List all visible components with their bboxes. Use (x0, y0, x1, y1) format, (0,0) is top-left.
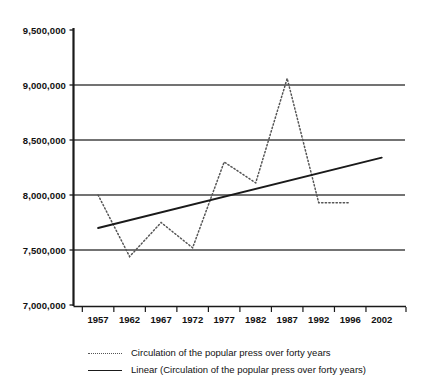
dotted-line-swatch-icon (88, 348, 122, 358)
x-axis-tick-label: 1967 (151, 314, 172, 325)
legend-entry-circulation: Circulation of the popular press over fo… (88, 347, 331, 358)
x-axis-tick-label: 2002 (371, 314, 392, 325)
x-axis-tick-label: 1987 (277, 314, 298, 325)
legend-entry-linear-trend: Linear (Circulation of the popular press… (88, 364, 366, 375)
x-axis-tick-label: 1977 (214, 314, 235, 325)
gridlines (74, 85, 406, 250)
y-axis-tick-label: 9,500,000 (0, 25, 66, 36)
y-axis-tick-label: 7,500,000 (0, 245, 66, 256)
solid-line-swatch-icon (88, 365, 122, 375)
chart-container: 7,000,0007,500,0008,000,0008,500,0009,00… (0, 0, 430, 389)
y-axis-tick-label: 9,000,000 (0, 80, 66, 91)
series-line-linear-trend (98, 158, 382, 228)
x-axis-tick-label: 1957 (88, 314, 109, 325)
series-line-circulation (98, 78, 350, 256)
x-axis-tick-label: 1982 (245, 314, 266, 325)
x-axis-tick-label: 1962 (119, 314, 140, 325)
x-axis-tick-label: 1992 (308, 314, 329, 325)
y-axis-tick-label: 8,500,000 (0, 135, 66, 146)
legend-label-circulation: Circulation of the popular press over fo… (131, 347, 331, 358)
y-axis-tick-label: 8,000,000 (0, 190, 66, 201)
y-axis-tick-label: 7,000,000 (0, 300, 66, 311)
x-axis-tick-label: 1972 (182, 314, 203, 325)
x-axis-tick-marks (82, 307, 406, 312)
x-axis-tick-label: 1996 (340, 314, 361, 325)
legend-label-linear-trend: Linear (Circulation of the popular press… (131, 364, 366, 375)
axis-lines (74, 28, 407, 307)
